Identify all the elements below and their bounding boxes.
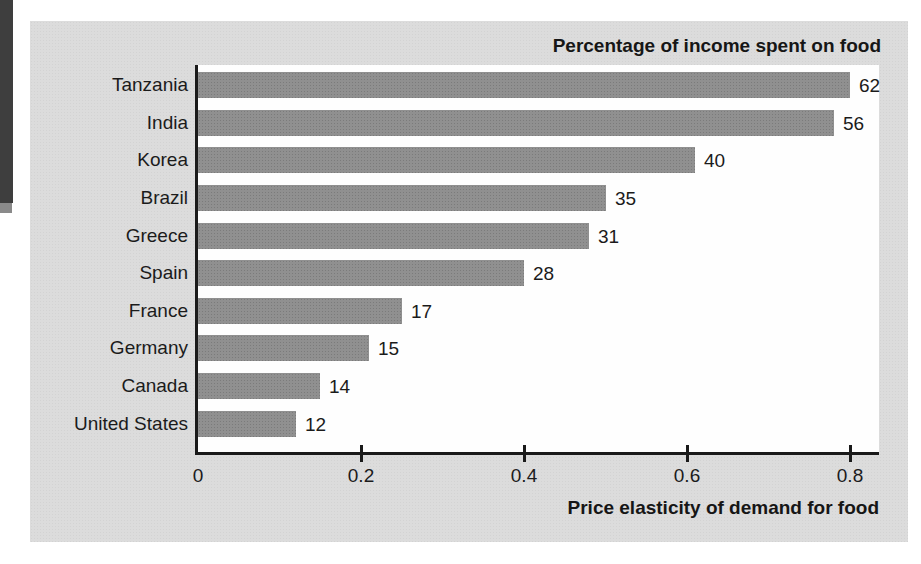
category-label: United States [30, 411, 188, 437]
bar [198, 223, 589, 249]
category-label: India [30, 110, 188, 136]
x-tick-label: 0 [158, 465, 238, 487]
x-tick-mark [849, 445, 852, 462]
x-tick-label: 0.6 [647, 465, 727, 487]
category-label: Germany [30, 335, 188, 361]
category-label: Spain [30, 260, 188, 286]
category-label: Tanzania [30, 72, 188, 98]
x-tick-mark [686, 445, 689, 462]
bar [198, 335, 369, 361]
bar-value-label: 62 [859, 72, 880, 98]
chart-panel: Percentage of income spent on food 62564… [30, 21, 908, 542]
bar-value-label: 56 [843, 110, 864, 136]
x-axis-title: Price elasticity of demand for food [568, 497, 879, 519]
bar-value-label: 35 [615, 185, 636, 211]
bar-value-label: 15 [378, 335, 399, 361]
bar-value-label: 31 [598, 223, 619, 249]
chart-title: Percentage of income spent on food [553, 35, 881, 57]
figure: Percentage of income spent on food 62564… [0, 0, 921, 564]
bar [198, 260, 524, 286]
x-tick-mark [523, 445, 526, 462]
bars-layer: 62564035312817151412 [198, 65, 879, 452]
bar-value-label: 17 [411, 298, 432, 324]
bar [198, 373, 320, 399]
bar-value-label: 14 [329, 373, 350, 399]
bar-value-label: 12 [305, 411, 326, 437]
bar [198, 298, 402, 324]
bar [198, 110, 834, 136]
page-edge-band [0, 0, 13, 203]
bar [198, 72, 850, 98]
bar-value-label: 28 [533, 260, 554, 286]
x-tick-label: 0.8 [810, 465, 890, 487]
category-label: Greece [30, 223, 188, 249]
x-tick-label: 0.2 [321, 465, 401, 487]
category-label: Canada [30, 373, 188, 399]
bar [198, 185, 606, 211]
bar [198, 147, 695, 173]
page-edge-band-tail [0, 203, 12, 213]
x-tick-mark [360, 445, 363, 462]
category-label: France [30, 298, 188, 324]
plot-area: 62564035312817151412 [195, 65, 879, 455]
bar-value-label: 40 [704, 147, 725, 173]
x-tick-label: 0.4 [484, 465, 564, 487]
category-label: Korea [30, 147, 188, 173]
category-label: Brazil [30, 185, 188, 211]
bar [198, 411, 296, 437]
